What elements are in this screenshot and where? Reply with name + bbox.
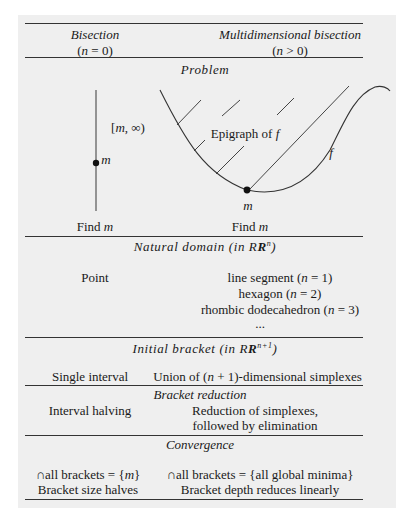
initial-bracket-title-text: Initial bracket (in R <box>133 341 249 356</box>
natural-domain-col2-line3: rhombic dodecahedron (n = 3) <box>180 302 380 318</box>
natural-domain-col2-line2: hexagon (n = 2) <box>180 286 380 302</box>
convergence-col2-line1: ∩all brackets = {all global minima} <box>160 467 360 483</box>
bracket-reduction-col1: Interval halving <box>35 403 145 419</box>
minimum-dot <box>244 187 251 194</box>
minimum-m-label: m <box>241 198 255 214</box>
interval-label: [m, ∞) <box>108 120 148 136</box>
epigraph-label: Epigraph of f <box>205 126 285 142</box>
point-m-label: m <box>100 152 112 168</box>
initial-bracket-col2: Union of (n + 1)-dimensional simplexes <box>145 369 370 385</box>
curve-f-label: f <box>326 145 336 161</box>
convergence-col1-line2: Bracket size halves <box>28 482 148 498</box>
section-title-bracket-reduction: Bracket reduction <box>140 387 260 403</box>
problem-col1: Find m <box>60 219 130 235</box>
section-title-convergence: Convergence <box>150 437 250 453</box>
point-m-dot <box>93 160 99 166</box>
convergence-col2-line2: Bracket depth reduces linearly <box>160 482 360 498</box>
natural-domain-col2-line1: line segment (n = 1) <box>180 270 380 286</box>
section-title-natural-domain: Natural domain (in RRn) <box>110 239 300 255</box>
initial-bracket-col1: Single interval <box>40 369 140 385</box>
convergence-col1-line1: ∩all brackets = {m} <box>28 467 148 483</box>
section-title-initial-bracket: Initial bracket (in RRn+1) <box>110 341 300 357</box>
natural-domain-col1: Point <box>60 270 130 286</box>
bracket-reduction-col2-line2: followed by elimination <box>180 418 330 434</box>
natural-domain-ellipsis: ... <box>240 318 280 330</box>
problem-col2: Find m <box>215 219 285 235</box>
natural-domain-title-text: Natural domain (in R <box>134 239 258 254</box>
bracket-reduction-col2-line1: Reduction of simplexes, <box>180 403 330 419</box>
